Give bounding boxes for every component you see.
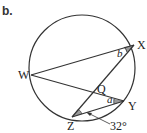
point-label-y: Y: [128, 99, 137, 113]
circle-geometry-diagram: b. X W Q Y Z b a 32°: [0, 0, 147, 133]
point-label-q: Q: [97, 82, 106, 96]
chord-xz: [72, 45, 134, 117]
point-label-z: Z: [67, 119, 74, 133]
angle-label-32: 32°: [110, 119, 127, 133]
angle-label-a: a: [107, 93, 113, 105]
arrowhead-icon: [86, 112, 92, 116]
part-label: b.: [2, 4, 13, 18]
angle-label-b: b: [117, 47, 123, 59]
point-label-x: X: [137, 38, 146, 52]
point-label-w: W: [18, 68, 30, 82]
